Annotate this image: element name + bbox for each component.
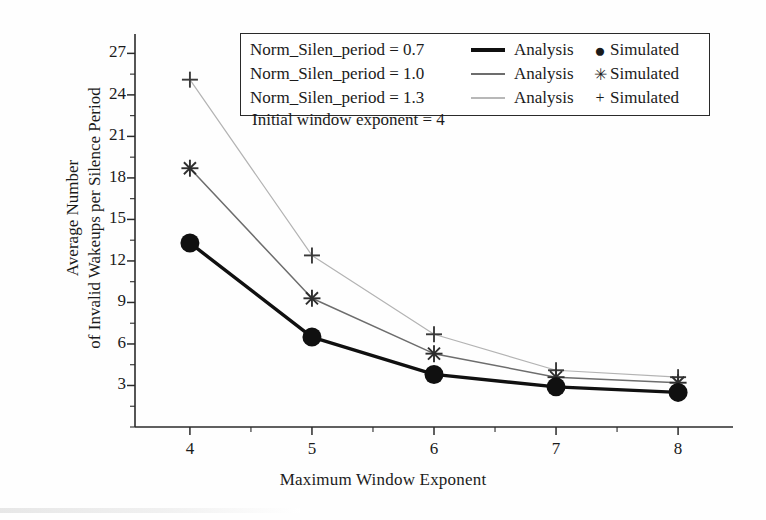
legend-analysis-label: Analysis: [514, 88, 590, 108]
legend-line-sample-thick: [471, 48, 505, 51]
data-point-plus-marker: [426, 326, 442, 342]
legend-series-label: Norm_Silen_period = 1.3: [250, 88, 468, 108]
chart-annotation: Initial window exponent = 4: [252, 110, 445, 130]
x-axis-title: Maximum Window Exponent: [0, 470, 766, 490]
data-point-plus-marker: [304, 247, 320, 263]
chart-legend: Norm_Silen_period = 0.7 Analysis ● Simul…: [240, 33, 710, 116]
legend-series-label: Norm_Silen_period = 1.0: [250, 64, 468, 84]
legend-row: Norm_Silen_period = 1.3 Analysis + Simul…: [250, 86, 701, 110]
legend-line-sample-medium: [471, 73, 505, 75]
y-axis-tick-label: 21: [86, 125, 126, 145]
x-axis-tick-label: 8: [658, 439, 698, 459]
legend-asterisk-marker-icon: ✳: [590, 65, 610, 84]
x-axis-tick-label: 5: [292, 439, 332, 459]
y-axis-tick-label: 3: [86, 374, 126, 394]
y-axis-title-line-1: Average Number: [62, 8, 84, 428]
data-point-asterisk-marker: [181, 160, 198, 177]
legend-analysis-label: Analysis: [514, 40, 590, 60]
data-point-circle-marker: [425, 365, 444, 384]
data-point-plus-marker: [182, 72, 198, 88]
legend-simulated-label: Simulated: [610, 88, 679, 108]
legend-circle-marker-icon: ●: [590, 42, 610, 59]
data-point-circle-marker: [547, 377, 566, 396]
legend-line-sample-thin: [471, 97, 505, 98]
y-axis-tick-label: 6: [86, 333, 126, 353]
data-point-asterisk-marker: [303, 290, 320, 307]
y-axis-tick-label: 9: [86, 291, 126, 311]
x-axis-tick-label: 7: [536, 439, 576, 459]
legend-plus-marker-icon: +: [590, 89, 610, 107]
legend-row: Norm_Silen_period = 0.7 Analysis ● Simul…: [250, 38, 701, 62]
data-point-circle-marker: [302, 328, 321, 347]
data-point-asterisk-marker: [426, 345, 443, 362]
y-axis-tick-label: 18: [86, 167, 126, 187]
y-axis-tick-label: 12: [86, 250, 126, 270]
legend-series-label: Norm_Silen_period = 0.7: [250, 40, 468, 60]
legend-row: Norm_Silen_period = 1.0 Analysis ✳ Simul…: [250, 62, 701, 86]
y-axis-tick-label: 24: [86, 84, 126, 104]
y-axis-tick-label: 15: [86, 208, 126, 228]
figure-canvas: Average Number of Invalid Wakeups per Si…: [0, 0, 766, 520]
x-axis-tick-label: 6: [414, 439, 454, 459]
x-axis-tick-label: 4: [170, 439, 210, 459]
legend-analysis-label: Analysis: [514, 64, 590, 84]
data-point-circle-marker: [180, 233, 199, 252]
data-point-circle-marker: [669, 383, 688, 402]
legend-simulated-label: Simulated: [610, 64, 679, 84]
y-axis-tick-label: 27: [86, 42, 126, 62]
legend-simulated-label: Simulated: [610, 40, 679, 60]
page-edge-artifact: [0, 508, 300, 513]
